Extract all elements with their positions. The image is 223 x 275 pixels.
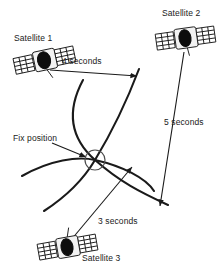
- range-arc-satellite-3: [22, 159, 154, 191]
- distance-leaders: [50, 52, 184, 240]
- satellite-icon-2: [155, 24, 217, 60]
- leader-line-satellite-1: [50, 70, 137, 76]
- label-distance-satellite-2: 5 seconds: [164, 117, 204, 127]
- label-fix-position: Fix position: [13, 133, 57, 143]
- range-arc-satellite-1: [73, 80, 168, 205]
- label-satellite-3: Satellite 3: [82, 253, 120, 263]
- leader-line-satellite-3: [71, 167, 132, 240]
- satellite-fix-diagram: Satellite 1 Satellite 2 Satellite 3 Fix …: [0, 0, 223, 275]
- label-satellite-2: Satellite 2: [162, 8, 200, 18]
- label-distance-satellite-1: 4 seconds: [62, 56, 102, 66]
- label-satellite-1: Satellite 1: [14, 33, 52, 43]
- range-arc-satellite-2: [44, 69, 139, 211]
- leader-line-satellite-2: [160, 52, 184, 206]
- label-distance-satellite-3: 3 seconds: [98, 216, 138, 226]
